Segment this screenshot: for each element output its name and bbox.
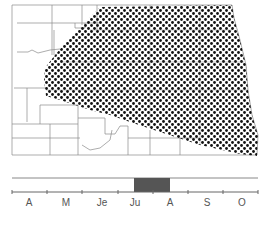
month-label: Ju — [130, 197, 141, 208]
month-label: Je — [97, 197, 108, 208]
seasonal-timeline: A M Je Ju A S O — [0, 170, 267, 215]
month-label: O — [238, 197, 246, 208]
month-label: M — [62, 197, 70, 208]
range-map — [0, 0, 267, 160]
active-period-bar — [134, 178, 170, 192]
month-label: A — [167, 197, 174, 208]
month-label: A — [26, 197, 33, 208]
month-label: S — [204, 197, 211, 208]
